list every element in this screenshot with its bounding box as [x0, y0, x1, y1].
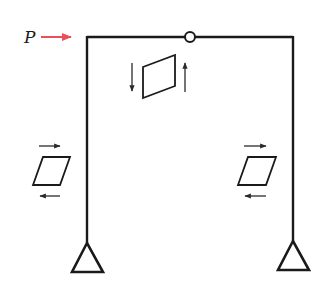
hinge-icon	[185, 32, 195, 42]
frame	[87, 36, 293, 243]
frame-diagram: P	[0, 0, 321, 294]
load-label: P	[23, 27, 36, 47]
left-support-icon	[72, 243, 103, 272]
right-column-shear-element	[238, 157, 276, 185]
right-support-icon	[278, 241, 309, 270]
beam-shear-element	[143, 55, 175, 98]
left-column-shear-element	[33, 157, 70, 185]
